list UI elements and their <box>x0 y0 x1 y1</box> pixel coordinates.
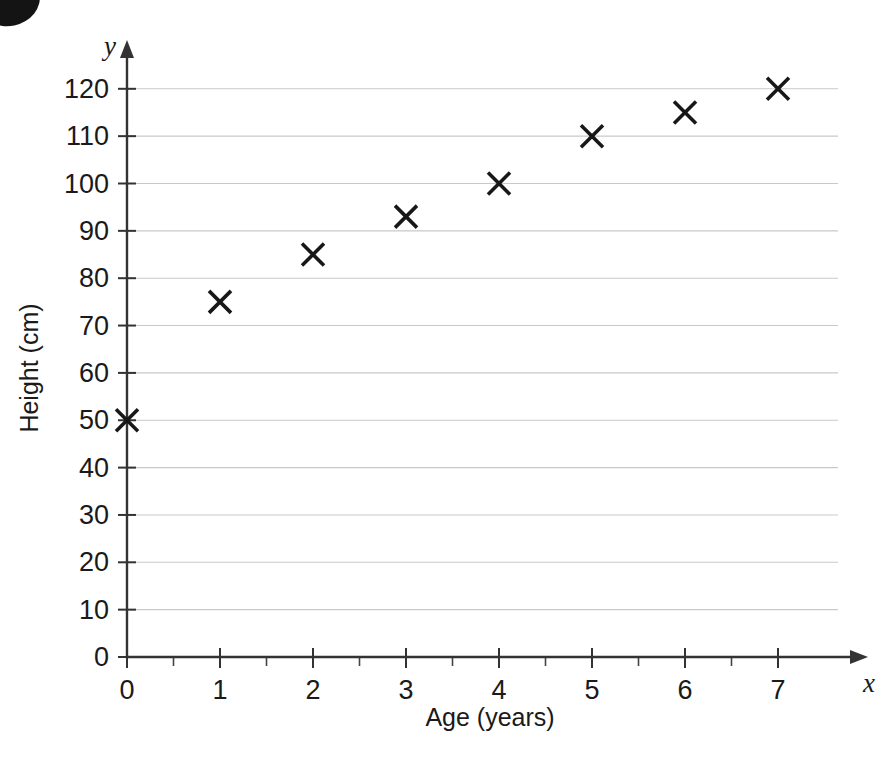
x-minor-tick-group <box>174 657 732 666</box>
y-axis-title: Height (cm) <box>15 303 43 432</box>
x-tick-label: 2 <box>305 675 320 705</box>
data-markers-group <box>116 78 789 431</box>
y-tick-label: 20 <box>79 547 109 577</box>
data-point-marker <box>209 291 231 313</box>
data-point-marker <box>674 101 696 123</box>
y-tick-label: 90 <box>79 216 109 246</box>
y-tick-label: 70 <box>79 311 109 341</box>
x-tick-label: 3 <box>398 675 413 705</box>
scatter-plot: 0102030405060708090100110120 01234567 y … <box>0 0 895 773</box>
y-axis-arrowhead <box>120 40 134 58</box>
x-tick-label: 7 <box>770 675 785 705</box>
data-point-marker <box>395 206 417 228</box>
y-tick-label: 110 <box>66 121 109 151</box>
y-tick-label: 80 <box>79 263 109 293</box>
x-tick-label: 4 <box>491 675 506 705</box>
y-axis-variable-label: y <box>101 31 116 61</box>
y-tick-label: 10 <box>79 595 109 625</box>
x-axis-arrowhead <box>850 650 868 664</box>
x-tick-label: 1 <box>212 675 227 705</box>
y-tick-group: 0102030405060708090100110120 <box>64 74 136 672</box>
y-tick-label: 60 <box>79 358 109 388</box>
y-tick-label: 50 <box>79 405 109 435</box>
y-tick-label: 120 <box>64 74 109 104</box>
y-tick-label: 40 <box>79 453 109 483</box>
x-tick-label: 6 <box>677 675 692 705</box>
data-point-marker <box>302 244 324 266</box>
x-axis-title: Age (years) <box>425 703 554 731</box>
y-tick-label: 0 <box>94 642 109 672</box>
x-tick-label: 5 <box>584 675 599 705</box>
y-tick-label: 30 <box>79 500 109 530</box>
gridlines-group <box>127 89 838 610</box>
x-axis-variable-label: x <box>862 668 875 698</box>
chart-canvas: 0102030405060708090100110120 01234567 y … <box>0 0 895 773</box>
x-tick-label: 0 <box>119 675 134 705</box>
y-tick-label: 100 <box>64 169 109 199</box>
